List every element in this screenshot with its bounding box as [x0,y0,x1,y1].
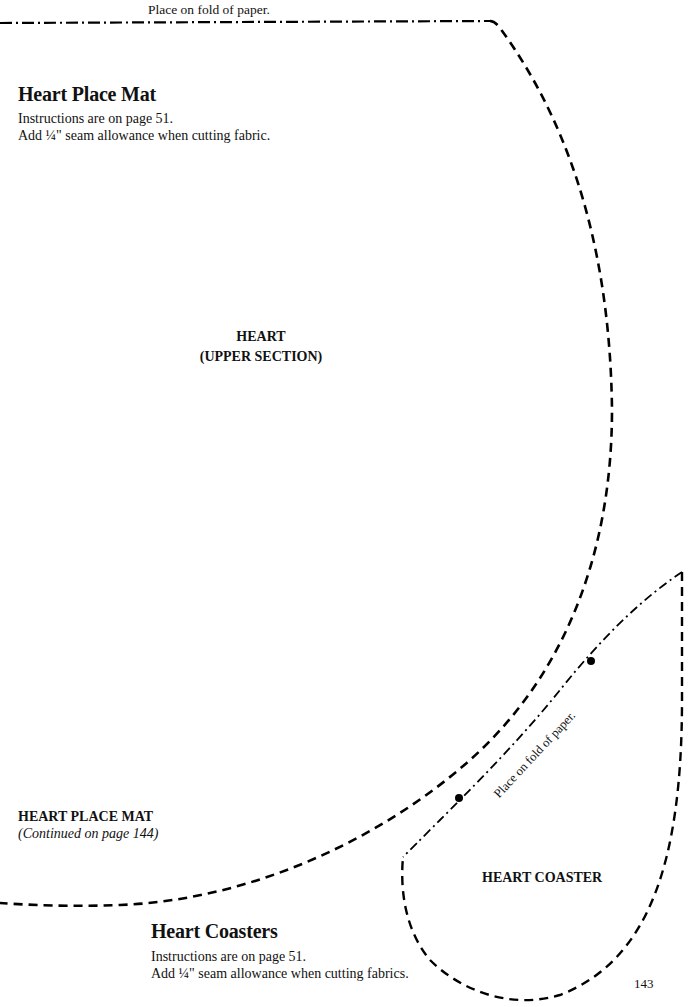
coasters-title: Heart Coasters [151,920,278,943]
coasters-seam-note: Add ¼" seam allowance when cutting fabri… [151,965,409,982]
continued-note: (Continued on page 144) [18,826,158,842]
coaster-cut-line [402,572,682,1000]
place-mat-title: Heart Place Mat [18,83,156,106]
continued-title: HEART PLACE MAT [18,807,153,827]
fold-label-top: Place on fold of paper. [148,2,270,18]
pattern-outlines [0,0,688,1007]
heart-upper-section-label: HEART (UPPER SECTION) [186,327,336,367]
page-number: 143 [634,976,654,992]
coaster-notch-dot [455,794,463,802]
coasters-instructions: Instructions are on page 51. [151,948,306,965]
coaster-fold-line [403,572,682,857]
piece-label-line1: HEART [186,327,336,347]
coaster-notch-dot [587,657,595,665]
place-mat-seam-note: Add ¼" seam allowance when cutting fabri… [18,127,270,144]
heart-coaster-label: HEART COASTER [482,868,602,888]
piece-label-line2: (UPPER SECTION) [186,347,336,367]
place-mat-instructions: Instructions are on page 51. [18,110,173,127]
place-mat-fold-line [0,21,490,23]
